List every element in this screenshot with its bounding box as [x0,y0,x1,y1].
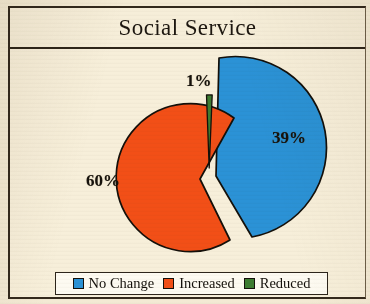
slice-label-no-change: 39% [272,128,306,148]
pie-container: 1% 39% 60% [10,51,365,297]
pie-chart-figure: Social Service 1% 39% 60% [0,0,370,304]
chart-legend: No Change Increased Reduced [55,272,328,295]
figure-frame: Social Service 1% 39% 60% [8,6,366,299]
chart-title: Social Service [119,15,257,41]
legend-swatch-increased [163,278,174,289]
legend-swatch-reduced [244,278,255,289]
slice-label-reduced: 1% [186,71,212,91]
legend-label-no-change: No Change [89,276,155,291]
legend-item-no-change[interactable]: No Change [73,276,155,291]
legend-item-reduced[interactable]: Reduced [244,276,311,291]
slice-label-increased: 60% [86,171,120,191]
chart-title-band: Social Service [10,8,365,49]
legend-swatch-no-change [73,278,84,289]
legend-label-reduced: Reduced [260,276,311,291]
legend-label-increased: Increased [179,276,235,291]
legend-item-increased[interactable]: Increased [163,276,235,291]
plot-area: 1% 39% 60% No Change Increased Reduced [10,51,365,297]
